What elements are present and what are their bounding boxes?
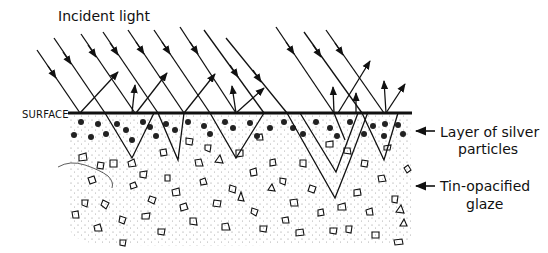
silver-layer-label-line1: Layer of silver: [440, 124, 539, 140]
glaze-region: [70, 114, 412, 246]
glaze-label-line1: Tin-opacified: [440, 178, 530, 194]
incident-light-label: Incident light: [58, 8, 150, 24]
silver-layer-label-line2: particles: [458, 141, 518, 157]
incident-rays: [37, 27, 384, 113]
glaze-label-line2: glaze: [466, 196, 503, 212]
surface-label: SURFACE: [22, 107, 69, 123]
